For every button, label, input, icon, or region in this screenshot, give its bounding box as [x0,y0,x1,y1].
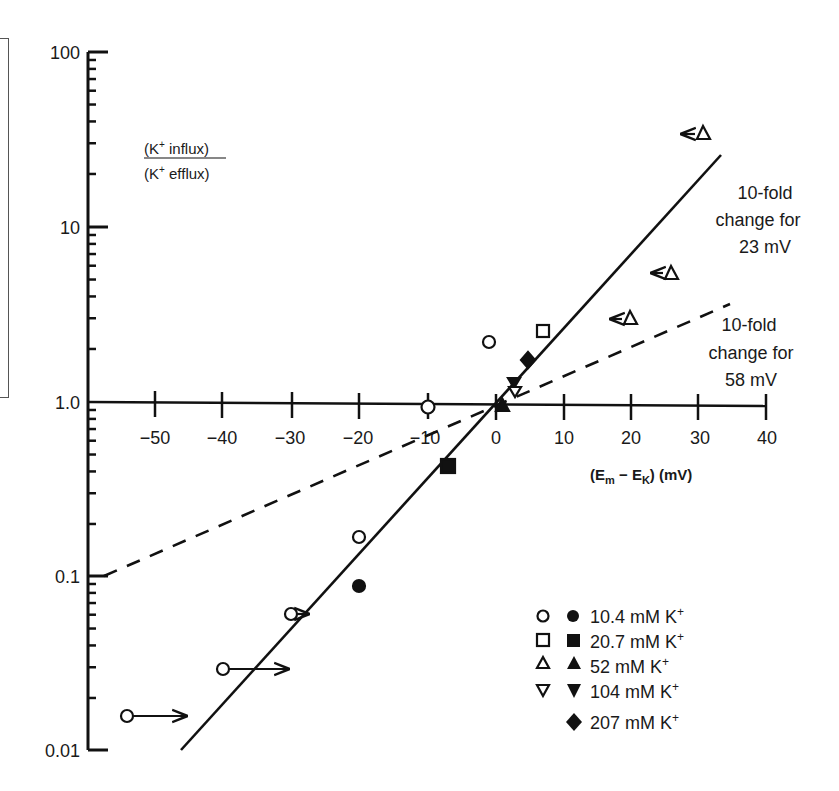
y-tick-label: 1.0 [55,393,80,413]
svg-text:10-fold: 10-fold [737,183,792,203]
point-open-circle [285,608,297,620]
open-inv-triangle-icon [537,685,549,696]
x-tick-label: −20 [343,428,374,448]
ratio-denominator: (K+ efflux) [144,164,210,182]
point-open-triangle [665,266,678,279]
y-tick-label: 100 [50,43,80,63]
x-axis-title: (Em − EK) (mV) [590,466,692,486]
open-square-icon [537,634,549,646]
point-open-triangle [624,311,637,324]
legend-item-104mm: 104 mM K+ [537,680,679,702]
annotation-23mv: 10-fold change for 23 mV [715,183,800,257]
y-tick-label: 0.01 [45,741,80,761]
point-open-circle [483,336,495,348]
legend-item-20-7mm: 20.7 mM K+ [537,630,684,652]
point-open-circle [217,663,229,675]
point-open-square [537,325,549,337]
svg-text:104 mM K+: 104 mM K+ [590,680,679,702]
svg-text:change for: change for [708,343,793,363]
x-axis: −50 −40 −30 −20 −10 0 10 20 30 40 [88,391,777,448]
x-tick-label: −40 [207,428,238,448]
svg-text:10-fold: 10-fold [721,315,776,335]
x-tick-label: −30 [275,428,306,448]
filled-square-icon [567,634,580,647]
svg-text:207 mM K+: 207 mM K+ [590,711,679,733]
point-open-circle [422,401,435,414]
point-filled-circle [353,580,365,592]
point-filled-square [441,459,455,473]
svg-text:23 mV: 23 mV [739,237,791,257]
svg-text:52 mM K+: 52 mM K+ [590,655,669,677]
x-tick-label: 10 [554,428,574,448]
point-open-circle [353,531,365,543]
point-open-circle [121,710,133,722]
legend: 10.4 mM K+ 20.7 mM K+ 52 mM K+ 104 mM K+… [537,605,684,733]
svg-text:change for: change for [715,210,800,230]
x-tick-label: 30 [690,428,710,448]
open-circle-icon [538,611,549,622]
filled-triangle-icon [567,656,581,669]
open-triangle-icon [537,657,549,668]
filled-inv-triangle-icon [567,684,581,698]
filled-diamond-icon [566,713,582,731]
x-tick-label: 0 [491,428,501,448]
y-tick-label: 10 [60,218,80,238]
annotation-58mv: 10-fold change for 58 mV [708,315,793,390]
point-open-triangle [697,126,710,139]
filled-circle-icon [567,610,579,622]
flux-ratio-chart: 100 10 1.0 0.1 0.01 −50 −40 −30 −20 −10 … [0,0,839,791]
point-filled-diamond [521,352,535,368]
x-tick-label: 20 [621,428,641,448]
ratio-numerator: (K+ influx) [144,139,209,157]
svg-text:20.7 mM K+: 20.7 mM K+ [590,630,684,652]
x-tick-label: −50 [140,428,171,448]
x-tick-label: 40 [757,428,777,448]
svg-text:58 mV: 58 mV [725,370,777,390]
y-axis-ratio-label: (K+ influx) (K+ efflux) [144,139,226,182]
legend-item-207mm: 207 mM K+ [566,711,679,733]
legend-item-52mm: 52 mM K+ [537,655,669,677]
legend-item-10-4mm: 10.4 mM K+ [538,605,685,627]
svg-text:10.4 mM K+: 10.4 mM K+ [590,605,684,627]
y-tick-label: 0.1 [55,567,80,587]
